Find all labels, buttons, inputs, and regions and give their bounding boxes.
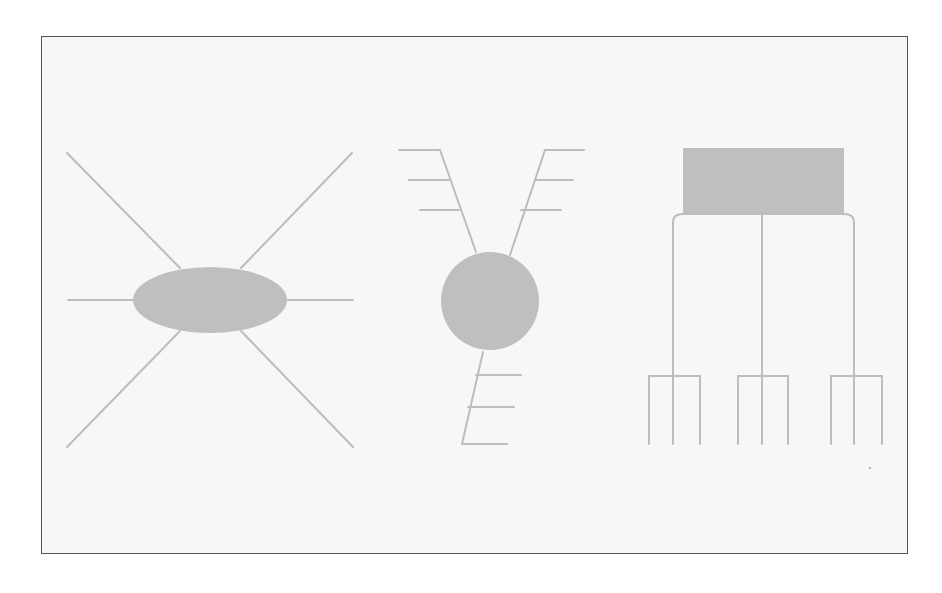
lower-arm-spine	[462, 352, 483, 444]
speck	[869, 467, 871, 469]
ray-line	[67, 153, 180, 268]
ray-line	[241, 153, 352, 268]
diagram-canvas	[0, 0, 942, 593]
circle-branch-diagram	[399, 150, 584, 444]
stem-right	[844, 214, 854, 376]
ray-line	[67, 331, 180, 447]
upper-left-arm-spine	[440, 150, 476, 252]
root-box	[683, 148, 844, 213]
upper-right-arm-spine	[510, 150, 545, 255]
spider-map-diagram	[67, 153, 353, 447]
tree-map-diagram	[649, 148, 882, 444]
hub-circle	[441, 252, 539, 350]
ray-line	[241, 331, 353, 447]
hub-ellipse	[133, 267, 287, 333]
stem-left	[673, 214, 683, 376]
